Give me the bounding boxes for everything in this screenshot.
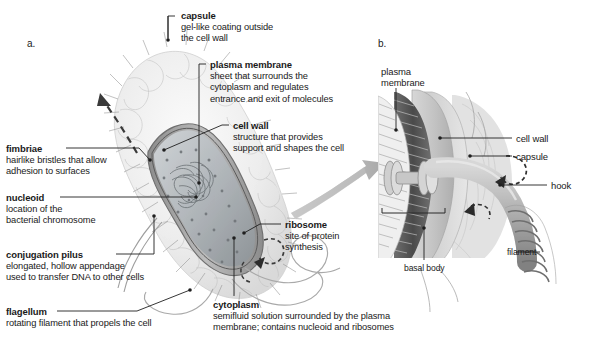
label-capsule-line-2: the cell wall <box>181 33 273 45</box>
label-b-cell-wall: cell wall <box>516 133 548 145</box>
label-b-basal-body-title: basal body <box>404 263 445 275</box>
label-conjugation-pilus: conjugation pilus elongated, hollow appe… <box>6 249 144 284</box>
label-b-cell-wall-title: cell wall <box>516 133 548 145</box>
label-flagellum: flagellum rotating filament that propels… <box>6 306 151 329</box>
label-b-capsule-title: capsule <box>516 151 548 163</box>
label-fimbriae-line-1: hairlike bristles that allow <box>6 155 107 167</box>
label-nucleoid-title: nucleoid <box>6 192 95 204</box>
label-b-filament-title: filament <box>507 247 536 259</box>
label-conjugation-pilus-line-1: elongated, hollow appendage <box>6 261 144 273</box>
motion-arrow-head <box>97 93 111 106</box>
label-cell-wall-title: cell wall <box>233 120 344 132</box>
label-fimbriae-title: fimbriae <box>6 143 107 155</box>
flagellum-closeup-illustration <box>378 90 556 312</box>
label-b-basal-body: basal body <box>404 263 445 275</box>
label-cell-wall: cell wall structure that provides suppor… <box>233 120 344 155</box>
label-b-plasma-membrane-line-1: plasma <box>381 66 425 78</box>
label-conjugation-pilus-title: conjugation pilus <box>6 249 144 261</box>
panel-b-letter: b. <box>378 38 386 49</box>
label-fimbriae-line-2: adhesion to surfaces <box>6 166 107 178</box>
label-flagellum-title: flagellum <box>6 306 151 318</box>
label-cytoplasm-line-1: semifluid solution surrounded by the pla… <box>213 311 394 323</box>
label-plasma-membrane-title: plasma membrane <box>210 59 333 71</box>
label-plasma-membrane-line-3: entrance and exit of molecules <box>210 94 333 106</box>
label-plasma-membrane-line-1: sheet that surrounds the <box>210 71 333 83</box>
figure-canvas: a. b. capsule gel-like coating outside t… <box>0 0 591 345</box>
label-cell-wall-line-2: support and shapes the cell <box>233 143 344 155</box>
label-ribosome-line-2: synthesis <box>285 242 339 254</box>
label-cytoplasm-title: cytoplasm <box>213 299 394 311</box>
label-capsule: capsule gel-like coating outside the cel… <box>181 10 273 45</box>
label-b-plasma-membrane-line-2: membrane <box>381 78 425 90</box>
label-conjugation-pilus-line-2: used to transfer DNA to other cells <box>6 272 144 284</box>
label-nucleoid-line-2: bacterial chromosome <box>6 215 95 227</box>
label-ribosome-line-1: site of protein <box>285 231 339 243</box>
zoom-arrow <box>291 160 385 219</box>
label-plasma-membrane: plasma membrane sheet that surrounds the… <box>210 59 333 105</box>
label-plasma-membrane-line-2: cytoplasm and regulates <box>210 82 333 94</box>
label-capsule-line-1: gel-like coating outside <box>181 22 273 34</box>
label-b-hook-title: hook <box>551 180 571 192</box>
label-capsule-title: capsule <box>181 10 273 22</box>
label-ribosome: ribosome site of protein synthesis <box>285 219 339 254</box>
panel-a-letter: a. <box>27 38 35 49</box>
label-b-plasma-membrane: plasma membrane <box>381 66 425 89</box>
label-cell-wall-line-1: structure that provides <box>233 132 344 144</box>
label-nucleoid-line-1: location of the <box>6 204 95 216</box>
label-nucleoid: nucleoid location of the bacterial chrom… <box>6 192 95 227</box>
label-b-filament: filament <box>507 247 536 259</box>
label-ribosome-title: ribosome <box>285 219 339 231</box>
label-cytoplasm: cytoplasm semifluid solution surrounded … <box>213 299 394 334</box>
label-fimbriae: fimbriae hairlike bristles that allow ad… <box>6 143 107 178</box>
label-flagellum-line-1: rotating filament that propels the cell <box>6 318 151 330</box>
label-b-hook: hook <box>551 180 571 192</box>
label-cytoplasm-line-2: membrane; contains nucleoid and ribosome… <box>213 322 394 334</box>
label-b-capsule: capsule <box>516 151 548 163</box>
